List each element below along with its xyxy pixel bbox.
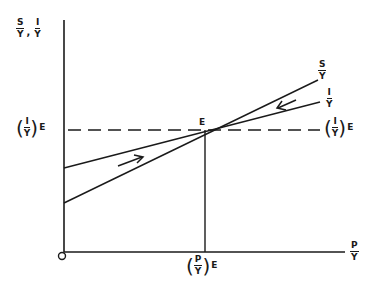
y-equilibrium-label-right: ( I Y ) E [324, 117, 353, 138]
equilibrium-point-label: E [199, 118, 205, 127]
y-equilibrium-label-left: ( I Y ) E [16, 117, 45, 138]
savings-curve [64, 80, 318, 203]
savings-ratio-fraction: S Y [16, 18, 24, 39]
investment-curve [64, 102, 320, 168]
savings-curve-label: S Y [318, 60, 326, 81]
x-axis-label: P Y [350, 241, 359, 262]
x-equilibrium-label: ( P Y ) E [186, 255, 217, 276]
arrow-right-icon [118, 155, 143, 166]
y-axis-label: S Y , I Y [16, 18, 41, 39]
origin-circle [59, 253, 66, 260]
investment-ratio-fraction: I Y [34, 18, 41, 39]
investment-curve-label: I Y [326, 88, 333, 109]
